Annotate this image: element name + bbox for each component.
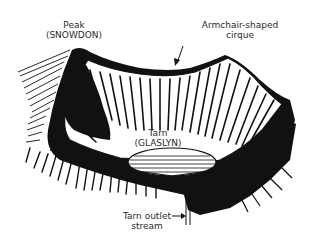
outlet-label-line1: Tarn outlet bbox=[112, 211, 182, 221]
cirque-label-line2: cirque bbox=[192, 30, 288, 40]
tarn-label-line1: Tarn bbox=[128, 128, 188, 138]
peak-label-line1: Peak bbox=[44, 20, 104, 30]
peak-label: Peak (SNOWDON) bbox=[44, 20, 104, 40]
outlet-label-line2: stream bbox=[112, 221, 182, 231]
cirque-label-line1: Armchair-shaped bbox=[192, 20, 288, 30]
peak-label-line2: (SNOWDON) bbox=[44, 30, 104, 40]
tarn-label: Tarn (GLASLYN) bbox=[128, 128, 188, 148]
outlet-label: Tarn outlet stream bbox=[112, 211, 182, 231]
tarn-label-line2: (GLASLYN) bbox=[128, 138, 188, 148]
cirque-arrowhead bbox=[174, 58, 180, 66]
cirque-label: Armchair-shaped cirque bbox=[192, 20, 288, 40]
